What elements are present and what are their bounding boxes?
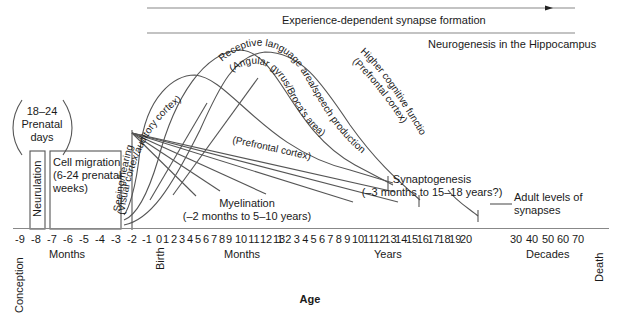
axis-tick: 7 — [211, 233, 217, 245]
axis-tick: -2 — [127, 233, 137, 245]
axis-tick: -8 — [31, 233, 41, 245]
axis-tick: 60 — [557, 233, 569, 245]
myelination-label-2: (–2 months to 5–10 years) — [183, 210, 311, 222]
axis-tick: -3 — [111, 233, 121, 245]
brain-development-diagram: Experience-dependent synapse formation N… — [0, 0, 621, 318]
myelination-label-1: Myelination — [219, 197, 275, 209]
axis-tick: 40 — [526, 233, 538, 245]
cell-migration-line3: weeks) — [52, 182, 88, 194]
axis-tick: 4 — [187, 233, 193, 245]
axis-tick: 30 — [510, 233, 522, 245]
angular-label: (Angular gyrus/Broca's area) — [227, 55, 328, 138]
axis-tick: 4 — [302, 233, 308, 245]
axis-tick: 1 — [163, 233, 169, 245]
axis-tick: 7 — [327, 233, 333, 245]
axis-tick: -1 — [142, 233, 152, 245]
axis-tick: 50 — [542, 233, 554, 245]
age-axis-title: Age — [300, 293, 321, 305]
axis-tick: 10 — [235, 233, 247, 245]
axis-tick: -7 — [47, 233, 57, 245]
axis-tick: -5 — [79, 233, 89, 245]
axis-tick: 5 — [311, 233, 317, 245]
axis-tick: 12 — [260, 233, 272, 245]
axis-tick: 6 — [203, 233, 209, 245]
birth-label: Birth — [154, 247, 166, 270]
prenatal-days-line1: 18–24 — [27, 105, 58, 117]
axis-tick: 1 — [277, 233, 283, 245]
axis-tick: 8 — [219, 233, 225, 245]
months-prenatal-label: Months — [49, 248, 86, 260]
experience-arrow — [147, 6, 575, 11]
conception-label: Conception — [13, 257, 25, 313]
axis-tick: 9 — [344, 233, 350, 245]
axis-tick: -4 — [95, 233, 105, 245]
axis-tick: -9 — [15, 233, 25, 245]
axis-tick: 3 — [179, 233, 185, 245]
axis-tick: 70 — [572, 233, 584, 245]
adult-synapses-label-1: Adult levels of — [514, 191, 583, 203]
experience-label: Experience-dependent synapse formation — [282, 14, 486, 26]
axis-tick: 9 — [226, 233, 232, 245]
synaptogenesis-label-1: Synaptogenesis — [393, 173, 472, 185]
cell-migration-line2: (6-24 prenatal — [53, 169, 122, 181]
synaptogenesis-label-2: (–3 months to 15–18 years?) — [362, 186, 503, 198]
prenatal-days-line2: Prenatal — [22, 118, 63, 130]
axis-tick-labels: -9-8-7-6-5-4-3-2-10123456789101112131234… — [15, 233, 584, 245]
axis-tick: 0 — [156, 233, 162, 245]
axis-tick: 8 — [336, 233, 342, 245]
axis-tick: 2 — [171, 233, 177, 245]
prenatal-days-line3: days — [30, 131, 54, 143]
axis-tick: 6 — [319, 233, 325, 245]
axis-tick: 11 — [248, 233, 259, 245]
death-label: Death — [593, 253, 605, 282]
adult-synapses-label-2: synapses — [514, 204, 561, 216]
axis-tick: -6 — [63, 233, 73, 245]
decades-label: Decades — [526, 248, 570, 260]
neurogenesis-label: Neurogenesis in the Hippocampus — [428, 38, 597, 50]
axis-tick: 3 — [294, 233, 300, 245]
months-postnatal-label: Months — [224, 248, 261, 260]
neurulation-label: Neurulation — [31, 161, 43, 217]
axis-tick: 20 — [460, 233, 472, 245]
axis-tick: 2 — [285, 233, 291, 245]
axis-tick: 5 — [195, 233, 201, 245]
years-label: Years — [374, 248, 402, 260]
cell-migration-line1: Cell migration — [53, 156, 120, 168]
